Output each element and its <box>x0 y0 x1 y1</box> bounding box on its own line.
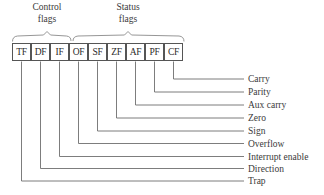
callout-label-interrupt-enable: Interrupt enable <box>248 152 308 162</box>
leader-line-sign <box>98 62 245 132</box>
callout-label-parity: Parity <box>248 87 271 97</box>
group-label-status-flags-line1: Status <box>93 2 163 14</box>
callout-label-zero: Zero <box>248 113 266 123</box>
callout-label-trap: Trap <box>248 176 266 186</box>
leader-line-aux-carry <box>136 62 245 106</box>
flag-box-if: IF <box>50 43 69 61</box>
leader-line-interrupt-enable <box>60 62 245 157</box>
callout-label-aux-carry: Aux carry <box>248 100 286 110</box>
flag-box-of: OF <box>69 43 88 61</box>
leader-line-direction <box>41 62 245 169</box>
callout-label-overflow: Overflow <box>248 139 284 149</box>
brace-control-flags <box>13 32 72 42</box>
flag-box-sf: SF <box>88 43 107 61</box>
group-label-control-flags-line1: Control <box>12 2 82 14</box>
flag-box-tf: TF <box>12 43 31 61</box>
group-label-status-flags: Status flags <box>93 2 163 25</box>
callout-label-direction: Direction <box>248 164 284 174</box>
group-label-status-flags-line2: flags <box>93 14 163 26</box>
leader-line-carry <box>174 62 245 80</box>
callout-label-sign: Sign <box>248 126 265 136</box>
flag-box-pf: PF <box>145 43 164 61</box>
brace-status-flags <box>73 32 184 42</box>
eflags-register-diagram: Control flags Status flags TF DF IF OF S… <box>0 0 324 195</box>
flag-box-cf: CF <box>164 43 183 61</box>
flag-box-zf: ZF <box>107 43 126 61</box>
leader-line-parity <box>155 62 245 93</box>
callout-label-carry: Carry <box>248 74 270 84</box>
group-label-control-flags-line2: flags <box>12 14 82 26</box>
group-label-control-flags: Control flags <box>12 2 82 25</box>
flag-box-df: DF <box>31 43 50 61</box>
flag-box-af: AF <box>126 43 145 61</box>
